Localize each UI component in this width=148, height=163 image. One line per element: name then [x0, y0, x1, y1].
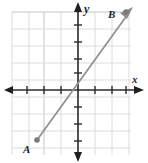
coordinate-plane-svg: A B y x	[0, 0, 148, 163]
point-b-label: B	[107, 8, 115, 20]
x-axis-label: x	[131, 73, 138, 85]
coordinate-plane-figure: A B y x	[0, 0, 148, 163]
y-axis-label: y	[82, 2, 90, 16]
point-a-label: A	[22, 143, 30, 155]
point-a-dot	[34, 137, 40, 143]
point-b-dot	[123, 9, 129, 15]
